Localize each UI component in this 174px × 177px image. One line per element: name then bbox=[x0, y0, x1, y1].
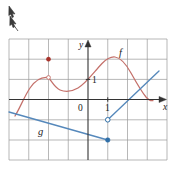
curve-f-cusp-point bbox=[47, 76, 51, 80]
origin-label: 0 bbox=[78, 103, 83, 113]
figure-background bbox=[0, 0, 174, 177]
marked-point-red bbox=[46, 57, 50, 61]
x-axis-label: x bbox=[162, 102, 168, 112]
x-tick-label-1: 1 bbox=[105, 103, 110, 113]
marked-point-blue-open bbox=[105, 118, 110, 123]
y-axis-label: y bbox=[78, 40, 84, 50]
marked-point-blue-filled bbox=[105, 138, 110, 143]
graph-svg: x y 0 1 1 f g bbox=[0, 0, 174, 177]
graph-figure: x y 0 1 1 f g bbox=[0, 0, 174, 177]
curve-label-g: g bbox=[38, 126, 43, 137]
y-tick-label-1: 1 bbox=[92, 75, 97, 85]
